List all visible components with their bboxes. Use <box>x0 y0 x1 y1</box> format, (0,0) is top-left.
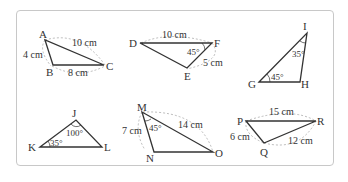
angle-f: 45° <box>187 47 200 57</box>
vertex-e: E <box>184 70 191 82</box>
vertex-l: L <box>104 141 111 153</box>
vertex-j: J <box>72 107 77 119</box>
triangle-abc: A B C 4 cm 8 cm 10 cm <box>23 28 113 78</box>
vertex-h: H <box>301 78 309 90</box>
side-mo: 14 cm <box>178 119 203 130</box>
triangle-def: D E F 10 cm 5 cm 45° <box>129 29 223 82</box>
side-df: 10 cm <box>162 29 187 40</box>
angle-j: 100° <box>66 128 84 138</box>
vertex-g: G <box>248 78 256 90</box>
vertex-q: Q <box>260 146 268 158</box>
side-mn: 7 cm <box>122 125 142 136</box>
vertex-m: M <box>137 101 147 113</box>
triangle-jkl: J K L 100° 35° <box>28 107 111 153</box>
side-bc: 8 cm <box>68 67 88 78</box>
triangle-mno: M N O 7 cm 14 cm 45° <box>122 101 223 164</box>
vertex-b: B <box>46 66 53 78</box>
triangle-pqr: P Q R 15 cm 6 cm 12 cm <box>230 106 325 158</box>
angle-m: 45° <box>149 123 162 133</box>
side-pr: 15 cm <box>269 106 294 117</box>
vertex-c: C <box>106 60 113 72</box>
angle-g: 45° <box>271 72 284 82</box>
side-ef: 5 cm <box>203 57 223 68</box>
side-ac: 10 cm <box>72 37 97 48</box>
side-qr: 12 cm <box>288 135 313 146</box>
side-ab: 4 cm <box>23 49 43 60</box>
vertex-n: N <box>146 152 154 164</box>
vertex-r: R <box>317 115 325 127</box>
side-pq: 6 cm <box>230 131 250 142</box>
angle-k: 35° <box>50 138 63 148</box>
vertex-p: P <box>237 115 243 127</box>
vertex-a: A <box>39 28 47 40</box>
vertex-f: F <box>214 37 220 49</box>
triangle-ghi: I G H 35° 45° <box>248 20 309 90</box>
vertex-k: K <box>28 141 36 153</box>
triangles-figure: A B C 4 cm 8 cm 10 cm D E F 10 cm 5 cm 4… <box>0 0 348 182</box>
vertex-d: D <box>129 37 137 49</box>
vertex-o: O <box>215 147 223 159</box>
vertex-i: I <box>303 20 307 32</box>
angle-i: 35° <box>292 49 305 59</box>
